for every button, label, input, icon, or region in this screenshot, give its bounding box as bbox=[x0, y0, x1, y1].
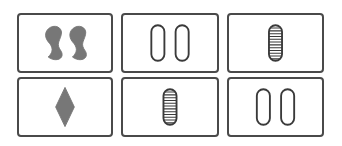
card-3[interactable] bbox=[227, 13, 324, 73]
oval-symbol bbox=[160, 89, 181, 124]
card-4[interactable] bbox=[17, 77, 113, 137]
diamond-symbol bbox=[56, 87, 75, 126]
oval-symbol bbox=[265, 25, 286, 60]
squiggle-symbol bbox=[70, 26, 87, 59]
oval-symbol bbox=[176, 25, 189, 60]
card-6-symbols bbox=[229, 79, 322, 135]
card-1[interactable] bbox=[17, 13, 113, 73]
oval-symbol bbox=[257, 89, 270, 124]
oval-symbol bbox=[151, 25, 164, 60]
card-2-symbols bbox=[123, 15, 217, 71]
card-3-symbols bbox=[229, 15, 322, 71]
card-5-symbols bbox=[123, 79, 217, 135]
card-1-symbols bbox=[19, 15, 111, 71]
card-6[interactable] bbox=[227, 77, 324, 137]
card-4-symbols bbox=[19, 79, 111, 135]
card-2[interactable] bbox=[121, 13, 219, 73]
squiggle-symbol bbox=[46, 26, 63, 59]
card-5[interactable] bbox=[121, 77, 219, 137]
oval-symbol bbox=[281, 89, 294, 124]
